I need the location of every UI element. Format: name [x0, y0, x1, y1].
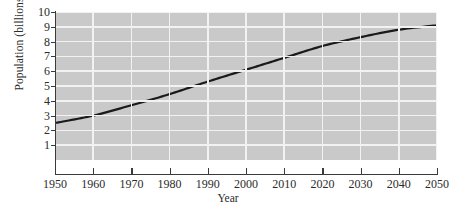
population-line-chart: Population (billions) 12345678910 Year 1…	[0, 0, 456, 208]
y-axis-tick-mark	[51, 42, 56, 43]
gridline-vertical	[245, 12, 247, 160]
y-axis-title: Population (billions)	[13, 0, 25, 117]
gridline-vertical	[360, 12, 362, 160]
gridline-vertical	[322, 12, 324, 160]
gridline-vertical	[169, 12, 171, 160]
y-axis-tick-label: 8	[26, 36, 50, 48]
y-axis-tick-mark	[51, 71, 56, 72]
y-axis-tick-mark	[51, 12, 56, 13]
y-axis-tick-label: 5	[26, 80, 50, 92]
y-axis-tick-mark	[51, 116, 56, 117]
x-axis-tick-mark	[93, 168, 94, 174]
x-axis-tick-mark	[246, 168, 247, 174]
x-axis-tick-mark	[284, 168, 285, 174]
x-axis-tick-mark	[55, 168, 56, 174]
y-axis-line	[55, 11, 56, 175]
x-axis-tick-mark	[170, 168, 171, 174]
y-axis-tick-label: 2	[26, 124, 50, 136]
y-axis-tick-label: 4	[26, 95, 50, 107]
y-axis-tick-mark	[51, 56, 56, 57]
x-axis-tick-mark	[399, 168, 400, 174]
y-axis-tick-label: 1	[26, 139, 50, 151]
y-axis-tick-label: 10	[26, 6, 50, 18]
x-axis-tick-mark	[361, 168, 362, 174]
gridline-vertical	[398, 12, 400, 160]
y-axis-tick-label: 6	[26, 65, 50, 77]
x-axis-tick-mark	[322, 168, 323, 174]
y-axis-tick-mark	[51, 27, 56, 28]
y-axis-tick-label: 7	[26, 50, 50, 62]
x-axis-tick-mark	[131, 168, 132, 174]
y-axis-tick-mark	[51, 145, 56, 146]
x-axis-title: Year	[0, 192, 456, 204]
x-axis-tick-mark	[437, 168, 438, 174]
x-axis-tick-label: 2050	[414, 178, 456, 191]
plot-area	[55, 12, 437, 160]
y-axis-tick-mark	[51, 86, 56, 87]
y-axis-tick-label: 3	[26, 110, 50, 122]
y-axis-tick-mark	[51, 101, 56, 102]
y-axis-tick-mark	[51, 130, 56, 131]
gridline-vertical	[131, 12, 133, 160]
gridline-vertical	[283, 12, 285, 160]
y-axis-tick-label: 9	[26, 21, 50, 33]
x-axis-tick-mark	[208, 168, 209, 174]
x-axis-line	[55, 174, 438, 175]
gridline-vertical	[92, 12, 94, 160]
gridline-vertical	[207, 12, 209, 160]
gridline-vertical	[436, 12, 437, 160]
